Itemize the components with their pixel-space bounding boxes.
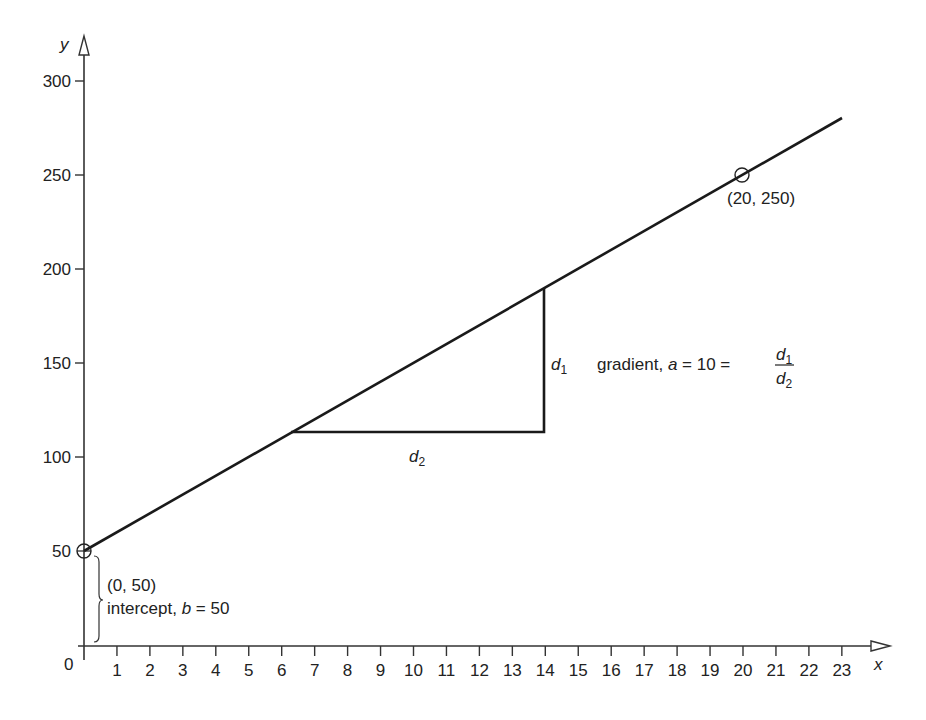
fraction-denominator: d2	[776, 369, 792, 391]
x-tick-label: 21	[766, 661, 785, 680]
x-tick-label: 13	[503, 661, 522, 680]
series-line	[84, 118, 842, 551]
x-tick-label: 7	[310, 661, 319, 680]
x-tick-label: 9	[376, 661, 385, 680]
x-tick-label: 11	[438, 661, 456, 680]
x-tick-label: 18	[668, 661, 687, 680]
x-ticks: 1234567891011121314151617181920212223	[112, 646, 851, 680]
y-tick-label: 250	[43, 166, 71, 185]
fraction-numerator: d1	[776, 345, 792, 367]
x-tick-label: 8	[343, 661, 352, 680]
y-tick-label: 50	[52, 542, 71, 561]
x-tick-label: 2	[145, 661, 154, 680]
x-tick-label: 12	[470, 661, 489, 680]
point-label-20-250: (20, 250)	[727, 189, 795, 208]
y-axis-arrow-icon	[79, 36, 89, 55]
y-tick-label: 100	[43, 448, 71, 467]
x-tick-label: 23	[832, 661, 851, 680]
chart-canvas: y x 0 1234567891011121314151617181920212…	[0, 0, 926, 720]
y-tick-label: 200	[43, 260, 71, 279]
x-tick-label: 5	[244, 661, 253, 680]
x-tick-label: 15	[569, 661, 588, 680]
y-tick-label: 300	[43, 72, 71, 91]
x-tick-label: 14	[536, 661, 555, 680]
x-tick-label: 10	[404, 661, 423, 680]
x-tick-label: 22	[799, 661, 818, 680]
d1-label: d1	[551, 355, 567, 377]
intercept-annotation: intercept, b = 50	[107, 599, 229, 618]
x-tick-label: 6	[277, 661, 286, 680]
x-tick-label: 4	[211, 661, 220, 680]
x-tick-label: 20	[734, 661, 753, 680]
x-tick-label: 17	[635, 661, 654, 680]
intercept-point-label: (0, 50)	[107, 576, 156, 595]
d2-label: d2	[409, 447, 425, 469]
x-tick-label: 3	[178, 661, 187, 680]
x-axis-arrow-icon	[871, 641, 890, 651]
y-axis-label: y	[59, 35, 70, 54]
x-tick-label: 16	[602, 661, 621, 680]
gradient-annotation: gradient, a = 10 =	[597, 355, 730, 374]
y-ticks: 50100150200250300	[43, 72, 84, 561]
y-tick-label: 150	[43, 354, 71, 373]
x-tick-label: 1	[112, 661, 121, 680]
origin-label: 0	[64, 655, 73, 674]
intercept-brace	[94, 556, 103, 642]
x-axis-label: x	[873, 655, 883, 674]
x-tick-label: 19	[701, 661, 720, 680]
